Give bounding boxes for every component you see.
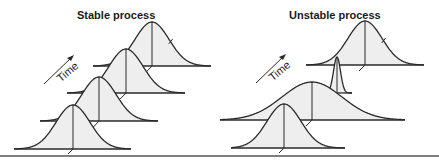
stable-time-arrowhead-icon (67, 55, 74, 61)
time-axis-connector (306, 120, 312, 126)
time-axis-connector (359, 65, 365, 71)
stable-time-arrow (44, 57, 72, 84)
time-axis-connector (93, 121, 99, 127)
process-stability-diagram (0, 0, 439, 164)
time-axis-connector (120, 93, 126, 99)
unstable-time-arrow (256, 56, 284, 83)
time-axis-tail (279, 148, 284, 153)
unstable-time-arrowhead-icon (279, 54, 286, 60)
time-axis-tail (68, 149, 73, 154)
time-axis-connector (146, 66, 152, 72)
